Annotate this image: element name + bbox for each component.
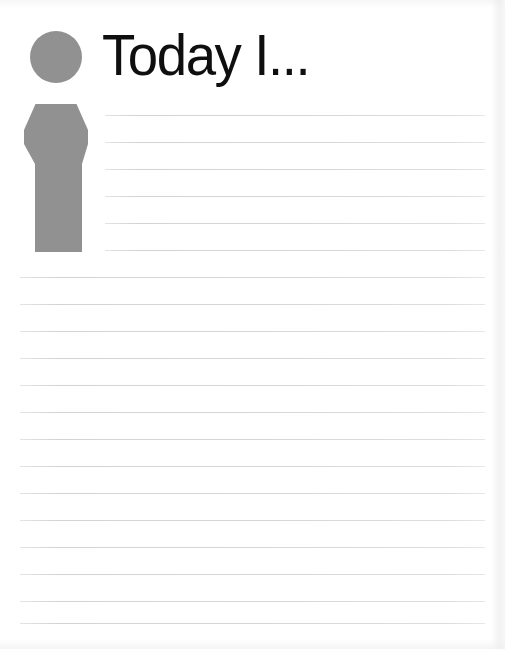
writing-line[interactable] — [20, 493, 485, 494]
writing-line[interactable] — [20, 466, 485, 467]
writing-line[interactable] — [20, 358, 485, 359]
writing-line[interactable] — [20, 412, 485, 413]
page-header: Today I... — [0, 0, 505, 100]
page-title: Today I... — [102, 24, 309, 86]
page-edge-shading-bottom — [0, 639, 505, 649]
writing-line[interactable] — [105, 115, 485, 116]
person-head-shape — [30, 31, 82, 83]
writing-line[interactable] — [105, 223, 485, 224]
writing-line[interactable] — [20, 574, 485, 575]
writing-line[interactable] — [105, 196, 485, 197]
writing-line[interactable] — [20, 623, 485, 624]
writing-line[interactable] — [20, 331, 485, 332]
person-body-shape — [24, 104, 88, 252]
writing-line[interactable] — [20, 385, 485, 386]
writing-line[interactable] — [20, 277, 485, 278]
writing-line[interactable] — [105, 169, 485, 170]
writing-line[interactable] — [105, 250, 485, 251]
writing-line[interactable] — [20, 547, 485, 548]
writing-line[interactable] — [20, 304, 485, 305]
person-figure-icon — [18, 28, 94, 256]
writing-line[interactable] — [20, 520, 485, 521]
worksheet-page: Today I... — [0, 0, 505, 649]
writing-line[interactable] — [20, 439, 485, 440]
writing-line[interactable] — [105, 142, 485, 143]
writing-line[interactable] — [20, 601, 485, 602]
